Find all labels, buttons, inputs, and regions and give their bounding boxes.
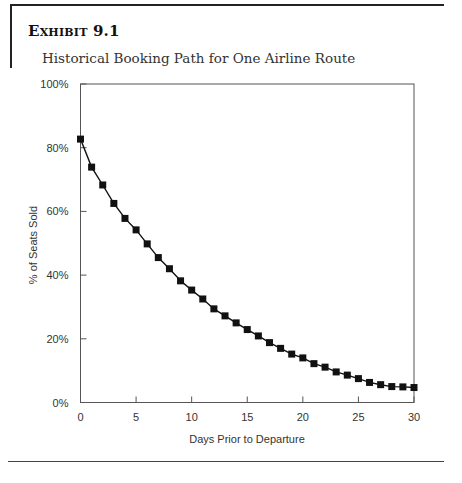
data-point-marker: [333, 368, 340, 375]
data-point-marker: [166, 265, 173, 272]
data-point-marker: [210, 305, 217, 312]
data-point-marker: [388, 383, 395, 390]
data-point-marker: [366, 379, 373, 386]
data-point-marker: [144, 240, 151, 247]
x-tick-label: 5: [133, 411, 139, 423]
data-point-marker: [288, 351, 295, 358]
data-point-marker: [233, 319, 240, 326]
data-point-marker: [199, 295, 206, 302]
data-point-marker: [110, 200, 117, 207]
data-point-marker: [188, 287, 195, 294]
data-point-marker: [133, 226, 140, 233]
x-tick-label: 10: [186, 411, 198, 423]
data-point-marker: [399, 383, 406, 390]
plot-area: [81, 84, 415, 403]
y-tick-label: 100%: [40, 78, 68, 90]
data-point-marker: [310, 360, 317, 367]
data-point-marker: [177, 277, 184, 284]
data-point-marker: [121, 215, 128, 222]
data-point-marker: [377, 381, 384, 388]
x-tick-label: 0: [77, 411, 83, 423]
data-point-marker: [255, 332, 262, 339]
line-chart: 0%20%40%60%80%100% 051015202530 Days Pri…: [0, 0, 462, 483]
y-axis-title: % of Seats Sold: [27, 206, 39, 284]
plot-border: [81, 84, 415, 403]
data-point-marker: [277, 345, 284, 352]
bottom-rule: [8, 461, 444, 462]
data-point-marker: [244, 326, 251, 333]
x-tick-label: 15: [241, 411, 253, 423]
data-series: [77, 136, 418, 391]
y-tick-label: 20%: [46, 333, 68, 345]
y-tick-label: 40%: [46, 269, 68, 281]
x-tick-label: 25: [352, 411, 364, 423]
data-point-marker: [322, 364, 329, 371]
data-point-marker: [222, 312, 229, 319]
data-point-marker: [344, 372, 351, 379]
x-tick-label: 20: [297, 411, 309, 423]
series-line: [81, 139, 415, 387]
y-tick-label: 80%: [46, 142, 68, 154]
x-axis: 051015202530: [77, 397, 420, 423]
y-axis: 0%20%40%60%80%100%: [40, 78, 86, 409]
data-point-marker: [355, 375, 362, 382]
data-point-marker: [77, 136, 84, 143]
data-point-marker: [411, 384, 418, 391]
data-point-marker: [266, 339, 273, 346]
x-tick-label: 30: [408, 411, 420, 423]
y-tick-label: 60%: [46, 205, 68, 217]
data-point-marker: [88, 164, 95, 171]
y-tick-label: 0%: [53, 397, 69, 409]
x-axis-title: Days Prior to Departure: [189, 433, 305, 445]
data-point-marker: [155, 254, 162, 261]
data-point-marker: [99, 181, 106, 188]
data-point-marker: [299, 354, 306, 361]
